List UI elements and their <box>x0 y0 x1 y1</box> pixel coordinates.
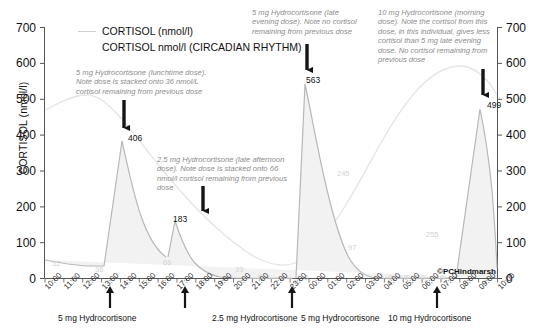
y-tick-label: 300 <box>506 165 534 177</box>
annotation-morning-dose: 10 mg Hydrocortisone (morning dose). Not… <box>378 8 498 64</box>
data-point-label: 563 <box>306 75 320 85</box>
data-point-label: 255 <box>426 230 439 239</box>
y-tick-label: 700 <box>2 22 36 34</box>
data-point-label: 52 <box>52 259 60 268</box>
legend-item-circadian: CORTISOL nmol/l (CIRCADIAN RHYTHM) <box>78 40 302 54</box>
dose-caption-3: 5 mg Hydrocortisone <box>301 313 379 323</box>
y-tick-label: 500 <box>506 93 534 105</box>
chart-root: CORTISOL (nmol/l) 0100200300400500600700… <box>0 0 534 333</box>
annotation-late-afternoon-dose: 2.5 mg Hydrocortisone (late afternoon do… <box>157 155 320 193</box>
legend-label-cortisol: CORTISOL (nmol/l) <box>102 25 193 37</box>
data-point-label: 33 <box>235 265 243 274</box>
annotation-lunchtime-dose: 5 mg Hydrocortisone (lunchtime dose). No… <box>76 68 236 96</box>
data-point-label: 245 <box>337 169 350 178</box>
y-tick-label: 400 <box>2 129 36 141</box>
data-point-label: 66 <box>163 258 171 267</box>
legend-swatch-circadian <box>78 47 96 48</box>
y-tick-label: 400 <box>506 129 534 141</box>
y-tick-label: 200 <box>2 201 36 213</box>
y-tick-label: 700 <box>506 22 534 34</box>
y-ticks-right <box>498 28 503 279</box>
dose-caption-1: 5 mg Hydrocortisone <box>58 313 136 323</box>
y-ticks-left <box>40 28 45 279</box>
data-point-label: 183 <box>173 214 187 224</box>
y-tick-label: 100 <box>506 237 534 249</box>
y-tick-label: 600 <box>506 57 534 69</box>
y-tick-label: 0 <box>2 273 36 285</box>
y-tick-label: 600 <box>2 57 36 69</box>
annotation-late-evening-dose: 5 mg Hydrocortisone (late evening dose).… <box>252 8 372 36</box>
y-tick-label: 100 <box>2 237 36 249</box>
copyright-credit: ©PCHindmarsh <box>437 267 496 276</box>
legend-swatch-cortisol <box>78 31 96 32</box>
y-tick-label: 500 <box>2 93 36 105</box>
y-tick-label: 200 <box>506 201 534 213</box>
data-point-label: 97 <box>348 243 356 252</box>
data-point-label: 406 <box>128 133 142 143</box>
y-tick-label: 300 <box>2 165 36 177</box>
data-point-label: 499 <box>487 100 501 110</box>
legend-label-circadian: CORTISOL nmol/l (CIRCADIAN RHYTHM) <box>102 41 302 53</box>
dose-caption-4: 10 mg Hydrocortisone <box>388 313 471 323</box>
dose-caption-2: 2.5 mg Hydrocortisone <box>212 313 298 323</box>
